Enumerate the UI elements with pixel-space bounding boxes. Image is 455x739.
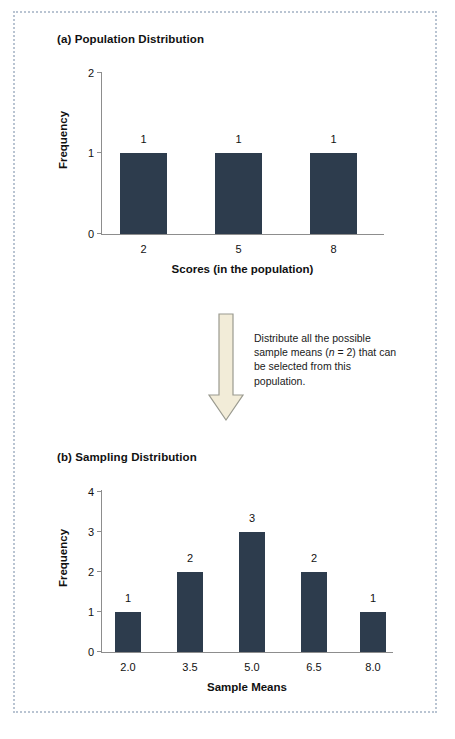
bar-value-a-0: 1 bbox=[120, 134, 167, 145]
annotation-line-2-pre: sample means ( bbox=[254, 346, 329, 358]
panel-a-title: (a) Population Distribution bbox=[57, 33, 204, 45]
x-tick-label-b-0: 2.0 bbox=[109, 662, 147, 673]
y-tick-mark-b-3 bbox=[97, 531, 101, 532]
y-tick-mark-a-1 bbox=[97, 152, 101, 153]
y-tick-label-b-4: 4 bbox=[88, 486, 94, 497]
y-tick-mark-a-0 bbox=[97, 233, 101, 234]
y-tick-label-a-2: 2 bbox=[88, 68, 94, 79]
bar-value-b-0: 1 bbox=[115, 593, 141, 604]
annotation-text: Distribute all the possible sample means… bbox=[254, 331, 404, 388]
y-axis-label-a: Frequency bbox=[57, 100, 69, 180]
x-tick-label-a-2: 8 bbox=[310, 244, 357, 255]
bar-value-b-1: 2 bbox=[177, 553, 203, 564]
bar-a-0 bbox=[120, 153, 167, 234]
bar-value-a-1: 1 bbox=[215, 134, 262, 145]
annotation-line-2-post: = 2) that bbox=[335, 346, 377, 358]
y-tick-mark-b-4 bbox=[97, 491, 101, 492]
bar-b-2 bbox=[239, 532, 265, 652]
y-axis-label-b: Frequency bbox=[57, 518, 69, 598]
y-tick-mark-a-2 bbox=[97, 72, 101, 73]
bar-value-b-3: 2 bbox=[301, 553, 327, 564]
y-tick-mark-b-2 bbox=[97, 571, 101, 572]
bar-value-b-4: 1 bbox=[360, 593, 386, 604]
downward-arrow-icon bbox=[206, 313, 246, 423]
y-axis-line-a bbox=[101, 72, 102, 235]
y-tick-label-b-3: 3 bbox=[88, 526, 94, 537]
bar-value-b-2: 3 bbox=[239, 513, 265, 524]
bar-value-a-2: 1 bbox=[310, 134, 357, 145]
x-axis-label-a: Scores (in the population) bbox=[101, 263, 384, 275]
x-tick-label-b-2: 5.0 bbox=[233, 662, 271, 673]
x-tick-label-b-4: 8.0 bbox=[354, 662, 392, 673]
panel-b-title: (b) Sampling Distribution bbox=[57, 451, 197, 463]
bar-b-1 bbox=[177, 572, 203, 652]
bar-a-1 bbox=[215, 153, 262, 234]
x-axis-line-b bbox=[101, 652, 393, 654]
annotation-line-4: population. bbox=[254, 375, 305, 387]
y-tick-mark-b-0 bbox=[97, 651, 101, 652]
y-tick-label-b-0: 0 bbox=[88, 646, 94, 657]
y-tick-label-b-1: 1 bbox=[88, 606, 94, 617]
x-tick-label-b-3: 6.5 bbox=[295, 662, 333, 673]
x-tick-label-a-0: 2 bbox=[120, 244, 167, 255]
x-tick-label-a-1: 5 bbox=[215, 244, 262, 255]
bar-b-3 bbox=[301, 572, 327, 652]
x-axis-line-a bbox=[101, 234, 384, 236]
bar-a-2 bbox=[310, 153, 357, 234]
annotation-line-1: Distribute all the possible bbox=[254, 332, 371, 344]
y-tick-label-b-2: 2 bbox=[88, 566, 94, 577]
population-distribution-chart: 0 1 2 Frequency 1 1 1 2 5 8 Scores (in t… bbox=[101, 72, 384, 235]
x-tick-label-b-1: 3.5 bbox=[171, 662, 209, 673]
x-axis-label-b: Sample Means bbox=[101, 681, 393, 693]
y-axis-line-b bbox=[101, 490, 102, 653]
bar-b-4 bbox=[360, 612, 386, 652]
y-tick-mark-b-1 bbox=[97, 611, 101, 612]
y-tick-label-a-1: 1 bbox=[88, 148, 94, 159]
bar-b-0 bbox=[115, 612, 141, 652]
sampling-distribution-chart: 0 1 2 3 4 Frequency 1 2 3 2 1 2.0 3.5 5.… bbox=[101, 490, 393, 653]
y-tick-label-a-0: 0 bbox=[88, 228, 94, 239]
